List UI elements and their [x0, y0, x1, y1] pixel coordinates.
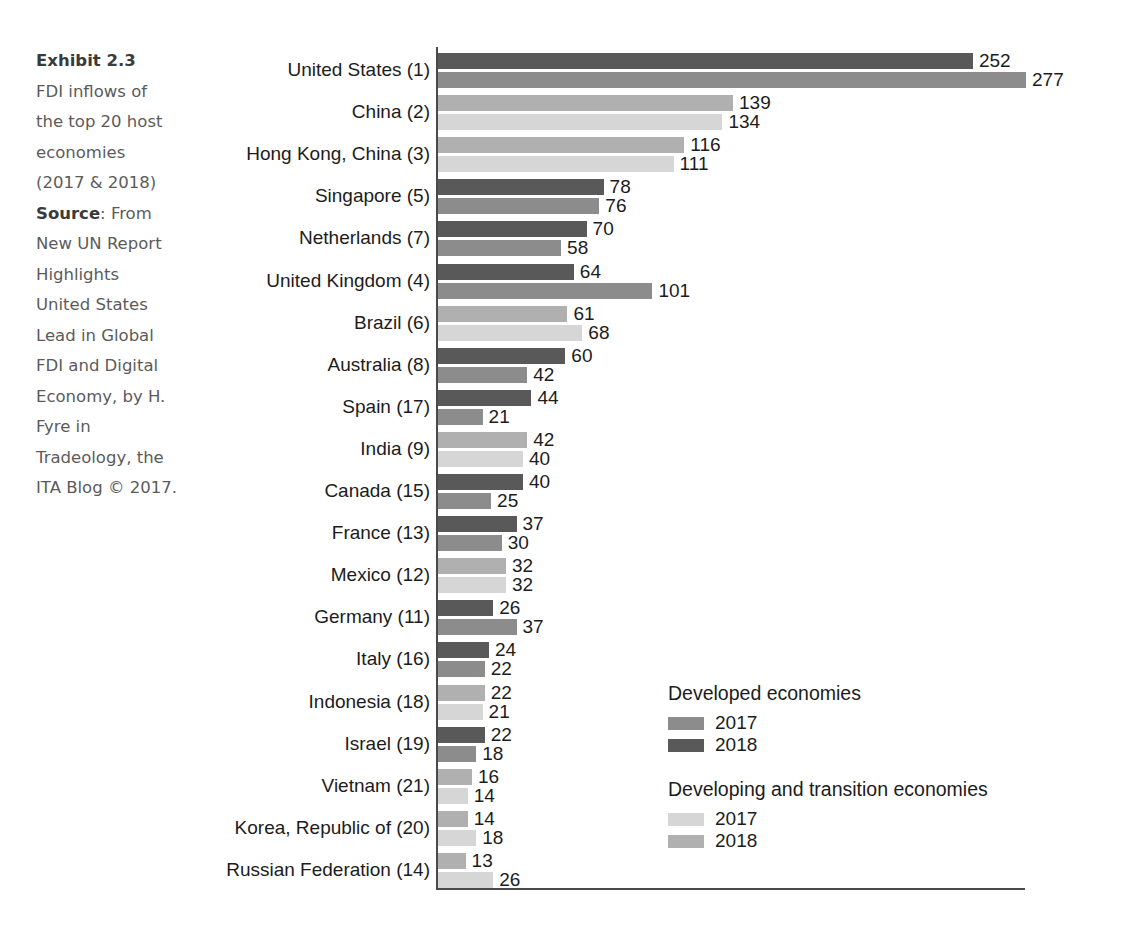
legend-heading: Developing and transition economies: [668, 778, 1088, 801]
bar-row: 44: [438, 390, 559, 406]
bar: [438, 704, 483, 720]
category-label: Australia (8): [110, 354, 430, 376]
bar-row: 22: [438, 661, 512, 677]
bar-value-label: 16: [478, 769, 499, 785]
bar-value-label: 139: [739, 95, 771, 111]
bar-value-label: 70: [593, 221, 614, 237]
bar-group: China (2)139134: [0, 92, 1132, 134]
fdi-bar-chart: United States (1)252277China (2)139134Ho…: [0, 0, 1132, 941]
bar-value-label: 26: [499, 600, 520, 616]
bar-value-label: 40: [529, 474, 550, 490]
bar: [438, 661, 485, 677]
bar-group: Hong Kong, China (3)116111: [0, 134, 1132, 176]
bar-row: 32: [438, 577, 533, 593]
bar-value-label: 30: [508, 535, 529, 551]
bar-value-label: 18: [482, 746, 503, 762]
bar-value-label: 14: [474, 811, 495, 827]
bar-group: Australia (8)6042: [0, 345, 1132, 387]
bar-value-label: 26: [499, 872, 520, 888]
bar: [438, 240, 561, 256]
legend-label: 2017: [715, 712, 757, 734]
bar: [438, 348, 565, 364]
bar-row: 18: [438, 746, 503, 762]
bar: [438, 830, 476, 846]
bar-row: 64: [438, 264, 601, 280]
bar: [438, 788, 468, 804]
bar-value-label: 22: [491, 661, 512, 677]
bar-row: 22: [438, 685, 512, 701]
category-label: Hong Kong, China (3): [110, 143, 430, 165]
bar-group: India (9)4240: [0, 429, 1132, 471]
bar: [438, 853, 466, 869]
bar-row: 116: [438, 137, 721, 153]
bar-row: 76: [438, 198, 626, 214]
bar: [438, 367, 527, 383]
bar-value-label: 32: [512, 577, 533, 593]
bar-row: 252: [438, 53, 1011, 69]
bar: [438, 451, 523, 467]
bar-group: Germany (11)2637: [0, 597, 1132, 639]
legend-item[interactable]: 2018: [668, 734, 1088, 756]
bar: [438, 179, 604, 195]
bar: [438, 685, 485, 701]
legend-group: Developing and transition economies20172…: [668, 778, 1088, 852]
bar-group: Brazil (6)6168: [0, 303, 1132, 345]
legend-item[interactable]: 2017: [668, 712, 1088, 734]
bar-row: 18: [438, 830, 503, 846]
category-label: Canada (15): [110, 480, 430, 502]
bar: [438, 474, 523, 490]
bar-row: 25: [438, 493, 518, 509]
bar-value-label: 58: [567, 240, 588, 256]
bar-row: 21: [438, 704, 510, 720]
category-label: Vietnam (21): [110, 775, 430, 797]
bar-value-label: 21: [489, 704, 510, 720]
bar: [438, 727, 485, 743]
legend-group: Developed economies20172018: [668, 682, 1088, 756]
bar-value-label: 42: [533, 432, 554, 448]
bar-row: 40: [438, 451, 550, 467]
bar-group: Spain (17)4421: [0, 387, 1132, 429]
bar: [438, 432, 527, 448]
category-label: Israel (19): [110, 733, 430, 755]
legend-item[interactable]: 2017: [668, 808, 1088, 830]
bar: [438, 221, 587, 237]
bar-row: 134: [438, 114, 760, 130]
category-label: Indonesia (18): [110, 691, 430, 713]
bar: [438, 325, 582, 341]
bar-row: 70: [438, 221, 614, 237]
bar-row: 16: [438, 769, 499, 785]
bar: [438, 746, 476, 762]
bar-value-label: 44: [537, 390, 558, 406]
bar-value-label: 37: [523, 619, 544, 635]
bar-group: United Kingdom (4)64101: [0, 261, 1132, 303]
category-label: China (2): [110, 101, 430, 123]
bar-value-label: 111: [680, 156, 709, 172]
bar-value-label: 78: [610, 179, 631, 195]
bar-value-label: 134: [728, 114, 760, 130]
bar-row: 22: [438, 727, 512, 743]
category-label: India (9): [110, 438, 430, 460]
category-label: United States (1): [110, 59, 430, 81]
bar-value-label: 116: [690, 137, 720, 153]
legend-label: 2017: [715, 808, 757, 830]
bar-value-label: 42: [533, 367, 554, 383]
bar-value-label: 64: [580, 264, 601, 280]
bar-row: 26: [438, 872, 520, 888]
bar: [438, 72, 1026, 88]
bar-value-label: 68: [588, 325, 609, 341]
legend-item[interactable]: 2018: [668, 830, 1088, 852]
bar: [438, 114, 722, 130]
category-label: Russian Federation (14): [110, 859, 430, 881]
bar: [438, 600, 493, 616]
bar: [438, 283, 652, 299]
bar-row: 78: [438, 179, 631, 195]
bar-row: 21: [438, 409, 510, 425]
legend-swatch-icon: [668, 717, 704, 730]
legend-heading: Developed economies: [668, 682, 1088, 705]
category-label: United Kingdom (4): [110, 270, 430, 292]
bar-group: Singapore (5)7876: [0, 176, 1132, 218]
bar: [438, 493, 491, 509]
bar-value-label: 22: [491, 727, 512, 743]
bar-group: France (13)3730: [0, 513, 1132, 555]
bar-row: 14: [438, 811, 495, 827]
